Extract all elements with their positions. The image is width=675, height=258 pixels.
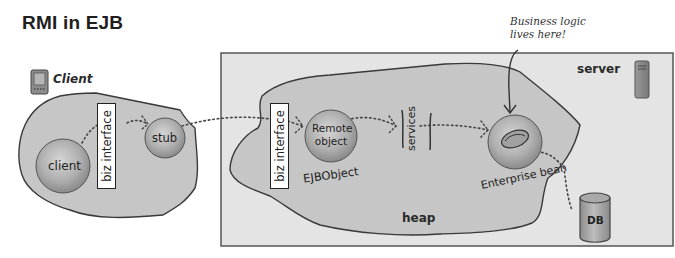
client-zone-label: Client — [53, 72, 92, 86]
client-biz-interface-label: biz interface — [100, 110, 114, 181]
server-biz-interface-box: biz interface — [270, 103, 289, 189]
remote-object-label: Remote object — [312, 122, 350, 148]
annotation-line1: Business logic — [510, 15, 586, 28]
services-bar-left — [402, 110, 403, 148]
server-zone-label: server — [577, 62, 620, 76]
server-biz-interface-label: biz interface — [273, 110, 287, 181]
server-tower-icon — [635, 61, 649, 98]
pda-device-icon — [31, 70, 48, 94]
client-node-label: client — [48, 159, 81, 173]
database-label: DB — [587, 214, 604, 226]
services-label: services — [405, 106, 418, 151]
business-logic-annotation: Business logic lives here! — [510, 15, 586, 41]
remote-object-label-line1: Remote — [312, 122, 350, 135]
annotation-line2: lives here! — [510, 28, 586, 41]
services-bar-right — [430, 113, 431, 150]
heap-label: heap — [402, 211, 435, 225]
stub-node-label: stub — [152, 131, 177, 145]
client-biz-interface-box: biz interface — [97, 103, 116, 189]
remote-object-label-line2: object — [312, 135, 350, 148]
